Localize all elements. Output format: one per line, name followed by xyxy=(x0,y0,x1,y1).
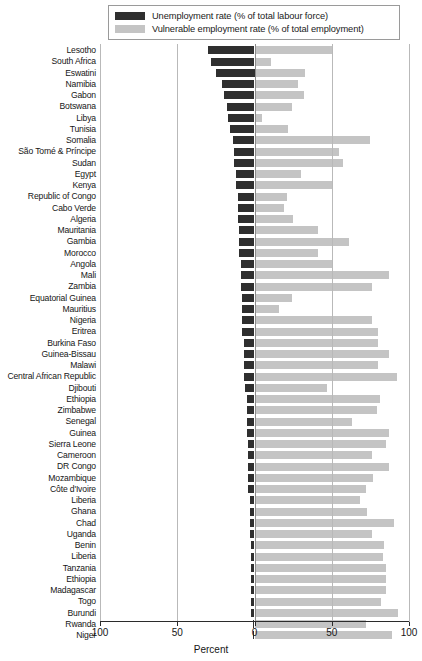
country-label: Egypt xyxy=(75,169,96,180)
bar-unemployment xyxy=(244,339,255,347)
bar-vulnerable-employment xyxy=(255,530,372,538)
bar-unemployment xyxy=(216,69,255,77)
bar-unemployment xyxy=(242,316,254,324)
bar-vulnerable-employment xyxy=(255,406,377,414)
bar-vulnerable-employment xyxy=(255,193,287,201)
bar-vulnerable-employment xyxy=(255,215,294,223)
country-label: Tanzania xyxy=(63,563,96,574)
bar-vulnerable-employment xyxy=(255,148,340,156)
zero-line xyxy=(255,44,256,622)
bar-vulnerable-employment xyxy=(255,114,263,122)
bar-vulnerable-employment xyxy=(255,519,394,527)
country-label: Mali xyxy=(81,270,96,281)
bar-vulnerable-employment xyxy=(255,474,374,482)
country-label: Algeria xyxy=(70,214,96,225)
bar-unemployment xyxy=(239,226,254,234)
country-label: Côte d'Ivoire xyxy=(50,484,96,495)
country-label: South Africa xyxy=(51,56,96,67)
country-label: Equatorial Guinea xyxy=(30,293,96,304)
country-label: Angola xyxy=(70,259,96,270)
country-label: Gabon xyxy=(71,90,96,101)
bar-vulnerable-employment xyxy=(255,350,389,358)
bar-vulnerable-employment xyxy=(255,361,379,369)
x-tick-label: 50 xyxy=(326,627,337,639)
bar-vulnerable-employment xyxy=(255,496,360,504)
bar-unemployment xyxy=(245,384,254,392)
gridline-0 xyxy=(100,44,101,622)
bar-vulnerable-employment xyxy=(255,170,301,178)
bar-unemployment xyxy=(236,170,255,178)
bar-vulnerable-employment xyxy=(255,69,306,77)
bar-vulnerable-employment xyxy=(255,294,292,302)
country-label: Sudan xyxy=(72,158,96,169)
bar-vulnerable-employment xyxy=(255,463,389,471)
bar-unemployment xyxy=(247,429,255,437)
country-label: Nigeria xyxy=(70,315,96,326)
bar-vulnerable-employment xyxy=(255,440,386,448)
bar-unemployment xyxy=(244,350,255,358)
gridline-3 xyxy=(332,44,333,622)
gridline-1 xyxy=(177,44,178,622)
country-label: Chad xyxy=(76,518,96,529)
bar-vulnerable-employment xyxy=(255,305,280,313)
x-tick-mark xyxy=(409,622,410,626)
bar-vulnerable-employment xyxy=(255,136,371,144)
country-label: Namibia xyxy=(66,79,96,90)
bar-vulnerable-employment xyxy=(255,159,343,167)
country-label: Guinea-Bissau xyxy=(42,349,96,360)
bar-unemployment xyxy=(211,58,254,66)
x-axis-title: Percent xyxy=(0,644,422,655)
country-label: Guinea xyxy=(69,428,96,439)
x-tick-label: 100 xyxy=(401,627,418,639)
bar-unemployment xyxy=(230,125,255,133)
country-label: Cameroon xyxy=(57,450,96,461)
bar-vulnerable-employment xyxy=(255,575,386,583)
bar-vulnerable-employment xyxy=(255,395,380,403)
bar-unemployment xyxy=(247,406,255,414)
x-tick-label: 0 xyxy=(252,627,258,639)
bar-vulnerable-employment xyxy=(255,429,389,437)
bar-unemployment xyxy=(241,283,255,291)
country-label: Central African Republic xyxy=(7,371,96,382)
bar-vulnerable-employment xyxy=(255,631,393,639)
country-label: Tunisia xyxy=(70,124,96,135)
x-tick-mark xyxy=(100,622,101,626)
bar-vulnerable-employment xyxy=(255,384,328,392)
bar-unemployment xyxy=(233,136,255,144)
country-label: Somalia xyxy=(66,135,96,146)
country-label: Lesotho xyxy=(66,45,96,56)
bar-vulnerable-employment xyxy=(255,541,385,549)
bar-vulnerable-employment xyxy=(255,58,272,66)
bar-vulnerable-employment xyxy=(255,283,372,291)
bar-unemployment xyxy=(222,80,254,88)
bar-vulnerable-employment xyxy=(255,373,397,381)
bar-unemployment xyxy=(239,238,254,246)
country-label: Sierra Leone xyxy=(49,439,96,450)
bar-vulnerable-employment xyxy=(255,204,284,212)
bar-unemployment xyxy=(239,249,254,257)
plot-frame: LesothoSouth AfricaEswatiniNamibiaGabonB… xyxy=(100,44,409,622)
country-label: Djibouti xyxy=(69,383,96,394)
bar-unemployment xyxy=(241,260,255,268)
bar-unemployment xyxy=(224,91,255,99)
bar-vulnerable-employment xyxy=(255,418,352,426)
bar-vulnerable-employment xyxy=(255,249,318,257)
bar-unemployment xyxy=(238,193,255,201)
bar-vulnerable-employment xyxy=(255,451,372,459)
country-label: Zambia xyxy=(68,281,96,292)
x-tick-mark xyxy=(332,622,333,626)
bar-vulnerable-employment xyxy=(255,508,368,516)
country-label: Ethiopia xyxy=(66,574,96,585)
x-tick-mark xyxy=(177,622,178,626)
bar-vulnerable-employment xyxy=(255,598,382,606)
bar-vulnerable-employment xyxy=(255,226,318,234)
country-label: Liberia xyxy=(71,495,96,506)
bar-vulnerable-employment xyxy=(255,485,366,493)
bar-vulnerable-employment xyxy=(255,238,349,246)
bar-unemployment xyxy=(238,215,255,223)
bar-unemployment xyxy=(242,305,254,313)
country-label: Libya xyxy=(76,113,96,124)
country-label: Kenya xyxy=(72,180,96,191)
bar-vulnerable-employment xyxy=(255,609,399,617)
country-label: Uganda xyxy=(67,529,96,540)
